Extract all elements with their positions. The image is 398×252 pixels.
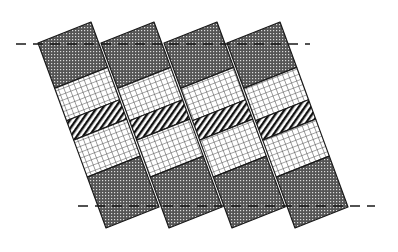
columns-group <box>38 22 348 228</box>
diagram-canvas <box>0 0 398 252</box>
